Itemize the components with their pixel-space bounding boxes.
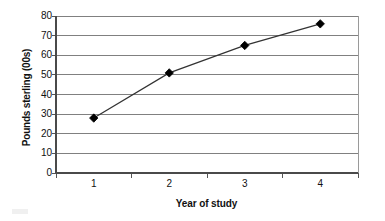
plot-area (0, 0, 385, 221)
series-line (94, 24, 321, 118)
data-point-marker (90, 114, 98, 122)
line-chart: Pounds sterling (00s) 01020304050607080 … (0, 0, 385, 221)
data-point-marker (316, 20, 324, 28)
data-point-marker (241, 41, 249, 49)
scan-artifact (12, 209, 28, 214)
data-series (90, 20, 325, 123)
data-point-marker (165, 69, 173, 77)
gridlines (56, 16, 358, 173)
